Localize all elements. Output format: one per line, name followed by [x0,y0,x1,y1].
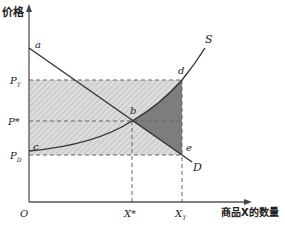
x-axis-arrow-icon [244,199,252,205]
price-label-p-star: P* [7,116,20,127]
price-label-p-d: PD [9,150,22,163]
quantity-label-x-t: XT [174,208,187,221]
y-axis-arrow-icon [26,4,32,12]
price-label-p-t: PT [9,75,22,88]
demand-label: D [192,161,202,174]
supply-label: S [205,33,213,46]
origin-label: O [20,208,28,219]
y-axis-label: 价格 [2,5,25,19]
point-c-label: c [33,141,39,152]
point-b-label: b [130,105,136,116]
point-a-label: a [35,39,41,50]
point-d-label: d [178,65,184,76]
point-e-label: e [186,142,192,153]
quantity-label-x-star: X* [123,208,136,219]
x-axis-label: 商品X的数量 [221,206,279,218]
economics-diagram: 价格 商品X的数量 O S D a b c d e PT P* PD X* XT [0,0,285,227]
